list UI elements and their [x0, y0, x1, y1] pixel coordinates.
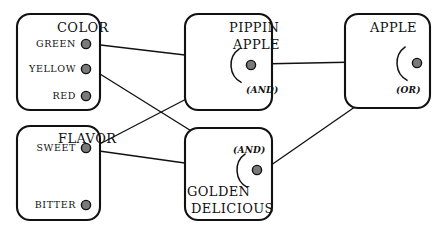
node-apple[interactable] — [412, 58, 421, 67]
box-color[interactable]: COLORGREENYELLOWRED — [17, 14, 109, 110]
box-title-color: COLOR — [57, 20, 109, 35]
inference-network-diagram: COLORGREENYELLOWREDFLAVORSWEETBITTERPIPP… — [0, 0, 439, 238]
box-flavor[interactable]: FLAVORSWEETBITTER — [17, 126, 117, 220]
node-sweet[interactable] — [81, 143, 90, 152]
gate-label-apple: (OR) — [396, 85, 421, 95]
node-green[interactable] — [81, 39, 90, 48]
node-golden[interactable] — [252, 165, 261, 174]
node-pippin[interactable] — [246, 60, 255, 69]
node-yellow[interactable] — [81, 64, 90, 73]
node-label-green: GREEN — [36, 38, 76, 49]
node-label-red: RED — [52, 90, 76, 101]
boxes-layer: COLORGREENYELLOWREDFLAVORSWEETBITTERPIPP… — [17, 14, 430, 220]
node-red[interactable] — [81, 91, 90, 100]
gate-label-pippin-apple: (AND) — [246, 85, 279, 95]
diagram-canvas: COLORGREENYELLOWREDFLAVORSWEETBITTERPIPP… — [0, 0, 439, 238]
node-label-bitter: BITTER — [35, 199, 77, 210]
box-pippin-apple[interactable]: PIPPINAPPLE — [185, 14, 280, 110]
box-golden-delicious[interactable]: GOLDENDELICIOUS — [185, 128, 274, 220]
node-label-sweet: SWEET — [37, 142, 77, 153]
box-title-pippin-apple: PIPPIN — [229, 20, 279, 35]
box-title-apple: APPLE — [369, 20, 417, 35]
gate-label-golden-delicious: (AND) — [233, 145, 266, 155]
node-bitter[interactable] — [81, 200, 90, 209]
box-title-line2-golden-delicious: DELICIOUS — [191, 201, 274, 216]
node-label-yellow: YELLOW — [28, 63, 76, 74]
box-title-golden-delicious: GOLDEN — [187, 184, 250, 199]
